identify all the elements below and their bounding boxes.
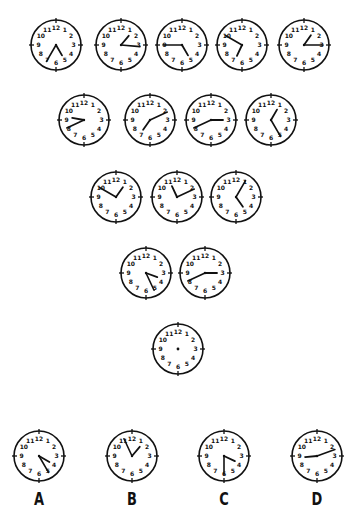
clock-numeral: 11 — [258, 101, 266, 108]
clock-numeral: 9 — [284, 41, 288, 48]
clock-numeral: 12 — [35, 435, 43, 442]
clock-numeral: 10 — [163, 32, 171, 39]
clock-numeral: 6 — [114, 211, 118, 218]
option-clock-a[interactable]: 121234567891011 — [12, 429, 66, 483]
center-dot — [55, 44, 57, 46]
clock-numeral: 4 — [134, 50, 138, 57]
clock-numeral: 10 — [131, 107, 139, 114]
clock-numeral: 5 — [189, 56, 193, 63]
clock-numeral: 6 — [315, 470, 319, 477]
clock-numeral: 6 — [180, 59, 184, 66]
clock-numeral: 4 — [145, 461, 149, 468]
clock-numeral: 3 — [71, 41, 75, 48]
clock-numeral: 7 — [73, 131, 77, 138]
clock-numeral: 2 — [237, 443, 241, 450]
clock-numeral: 7 — [121, 467, 125, 474]
clock-numeral: 1 — [249, 26, 253, 33]
clock-numeral: 10 — [192, 107, 200, 114]
option-label-b[interactable]: B — [121, 488, 143, 509]
clock-numeral: 10 — [158, 184, 166, 191]
clock-numeral: 11 — [103, 178, 111, 185]
clock-numeral: 6 — [82, 134, 86, 141]
clock-numeral: 6 — [209, 134, 213, 141]
clock-numeral: 4 — [52, 461, 56, 468]
clock-numeral: 8 — [165, 50, 169, 57]
clock-numeral: 1 — [128, 26, 132, 33]
clock-numeral: 11 — [223, 178, 231, 185]
center-dot — [316, 455, 318, 457]
clock-numeral: 3 — [239, 452, 243, 459]
center-dot — [149, 119, 151, 121]
clock-numeral: 3 — [220, 269, 224, 276]
clock-numeral: 3 — [192, 193, 196, 200]
clock-numeral: 7 — [28, 467, 32, 474]
clock-numeral: 9 — [126, 269, 130, 276]
clock-numeral: 10 — [186, 260, 194, 267]
sequence-clock-1-5: 121234567891011 — [277, 18, 331, 72]
clock-numeral: 3 — [193, 345, 197, 352]
clock-numeral: 9 — [251, 116, 255, 123]
clock-numeral: 4 — [330, 461, 334, 468]
option-label-c[interactable]: C — [213, 488, 235, 509]
clock-numeral: 2 — [129, 184, 133, 191]
clock-numeral: 2 — [134, 32, 138, 39]
clock-numeral: 7 — [105, 208, 109, 215]
option-clock-b[interactable]: 121234567891011 — [105, 429, 159, 483]
sequence-clock-3-2: 121234567891011 — [150, 170, 204, 224]
clock-numeral: 11 — [108, 26, 116, 33]
clock-numeral: 1 — [278, 101, 282, 108]
option-clock-c[interactable]: 121234567891011 — [197, 429, 251, 483]
clock-numeral: 5 — [128, 56, 132, 63]
clock-numeral: 12 — [112, 176, 120, 183]
option-label-a[interactable]: A — [28, 488, 50, 509]
clock-numeral: 1 — [157, 101, 161, 108]
sequence-clock-1-3: 121234567891011 — [155, 18, 209, 72]
sequence-clock-3-1: 121234567891011 — [89, 170, 143, 224]
clock-numeral: 8 — [225, 50, 229, 57]
clock-numeral: 11 — [198, 101, 206, 108]
clock-numeral: 11 — [229, 26, 237, 33]
option-label-d[interactable]: D — [306, 488, 328, 509]
clock-numeral: 12 — [220, 435, 228, 442]
clock-numeral: 12 — [238, 24, 246, 31]
clock-numeral: 11 — [164, 178, 172, 185]
clock-numeral: 7 — [171, 56, 175, 63]
clock-numeral: 1 — [311, 26, 315, 33]
clock-numeral: 9 — [19, 452, 23, 459]
clock-numeral: 8 — [104, 50, 108, 57]
center-dot — [223, 455, 225, 457]
clock-numeral: 4 — [191, 354, 195, 361]
puzzle-canvas: 1212345678910111212345678910111212345678… — [0, 0, 358, 532]
clock-numeral: 6 — [176, 363, 180, 370]
clock-numeral: 9 — [185, 269, 189, 276]
clock-numeral: 3 — [332, 452, 336, 459]
clock-numeral: 9 — [204, 452, 208, 459]
sequence-clock-2-3: 121234567891011 — [184, 93, 238, 147]
clock-numeral: 8 — [300, 461, 304, 468]
clock-numeral: 5 — [185, 360, 189, 367]
clock-numeral: 12 — [300, 24, 308, 31]
option-clock-d[interactable]: 121234567891011 — [290, 429, 344, 483]
sequence-clock-4-2: 121234567891011 — [178, 246, 232, 300]
clock-numeral: 12 — [267, 99, 275, 106]
center-dot — [176, 196, 178, 198]
clock-numeral: 1 — [91, 101, 95, 108]
clock-numeral: 11 — [43, 26, 51, 33]
center-dot — [181, 44, 183, 46]
center-dot — [83, 119, 85, 121]
clock-numeral: 6 — [203, 287, 207, 294]
clock-numeral: 10 — [298, 443, 306, 450]
clock-numeral: 10 — [65, 107, 73, 114]
clock-numeral: 7 — [231, 56, 235, 63]
clock-numeral: 11 — [71, 101, 79, 108]
clock-numeral: 6 — [269, 134, 273, 141]
clock-numeral: 7 — [213, 467, 217, 474]
clock-numeral: 9 — [222, 41, 226, 48]
center-dot — [145, 272, 147, 274]
clock-numeral: 12 — [128, 435, 136, 442]
clock-numeral: 9 — [64, 116, 68, 123]
clock-numeral: 6 — [144, 287, 148, 294]
clock-numeral: 12 — [232, 176, 240, 183]
clock-numeral: 1 — [63, 26, 67, 33]
clock-numeral: 2 — [224, 107, 228, 114]
